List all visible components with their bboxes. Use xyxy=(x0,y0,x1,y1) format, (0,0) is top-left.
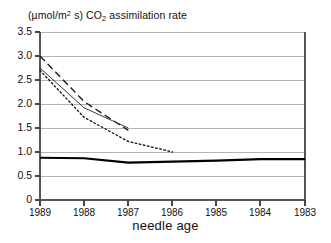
y-tick-label-3.5: 3.5 xyxy=(0,25,32,37)
y-tick-label-3.0: 3.0 xyxy=(0,49,32,61)
y-tick-label-2.5: 2.5 xyxy=(0,73,32,85)
data-series-layer xyxy=(40,56,305,163)
x-tick-label-1984: 1984 xyxy=(237,207,283,218)
y-tick-label-1.0: 1.0 xyxy=(0,145,32,157)
y-tick-label-0.5: 0.5 xyxy=(0,169,32,181)
x-tick-label-1983: 1983 xyxy=(282,207,328,218)
x-tick-label-1988: 1988 xyxy=(61,207,107,218)
x-tick-label-1986: 1986 xyxy=(149,207,195,218)
chart-figure: (µmol/m2 s) CO2 assimilation rate xyxy=(0,0,331,243)
y-tick-label-2.0: 2.0 xyxy=(0,97,32,109)
series-dotted xyxy=(40,70,173,152)
series-solid-thick xyxy=(40,158,305,163)
y-tick-marks xyxy=(35,32,40,200)
series-solid-thin xyxy=(40,68,128,128)
axis-lines xyxy=(40,32,305,200)
y-tick-label-0: 0 xyxy=(0,193,32,205)
x-tick-label-1985: 1985 xyxy=(193,207,239,218)
x-tick-marks xyxy=(40,200,305,206)
series-dashed xyxy=(40,56,128,130)
x-tick-label-1987: 1987 xyxy=(105,207,151,218)
y-tick-label-1.5: 1.5 xyxy=(0,121,32,133)
x-tick-label-1989: 1989 xyxy=(17,207,63,218)
x-axis-title: needle age xyxy=(0,218,331,233)
